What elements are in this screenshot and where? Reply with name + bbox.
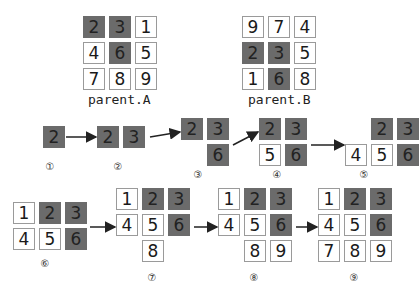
arrow (150, 132, 180, 137)
arrow (233, 132, 258, 145)
